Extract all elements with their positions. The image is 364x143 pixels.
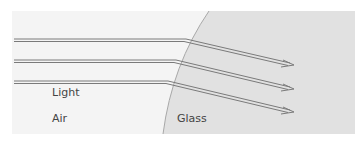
- label-light: Light: [52, 86, 80, 99]
- refraction-diagram: Light Air Glass: [0, 0, 364, 143]
- label-glass: Glass: [177, 112, 207, 125]
- label-air: Air: [52, 112, 68, 125]
